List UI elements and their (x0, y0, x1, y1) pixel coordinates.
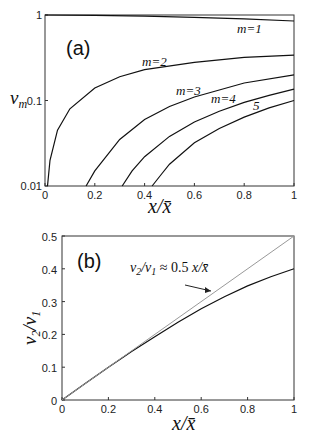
curve-m=2 (48, 55, 295, 186)
y-tick-label: 0.1 (27, 95, 42, 107)
curve-m=4 (122, 89, 294, 186)
label-m1: m=1 (237, 21, 262, 36)
x-tick-label: 0 (42, 189, 48, 201)
label-m4: m=4 (211, 91, 236, 106)
y-tick-label: 0.01 (21, 180, 42, 192)
x-tick-label: 0.2 (87, 189, 102, 201)
figure: 00.20.40.60.810.010.11 (a) vm x/x̄ m=1 m… (0, 0, 311, 447)
panel-b-label: (b) (77, 250, 101, 272)
x-tick-label: 1 (291, 189, 297, 201)
panel-b-xlabel: x/x̄ (171, 412, 195, 434)
x-tick-label: 0.4 (147, 403, 162, 415)
y-tick-label: 0.5 (42, 231, 57, 243)
x-tick-label: 0.2 (101, 403, 116, 415)
annotation-arrowhead (205, 287, 211, 293)
curve-m=5 (152, 101, 294, 187)
x-tick-label: 0.6 (194, 403, 209, 415)
panel-b-annotation: v2/v1 ≈ 0.5 x/x̄ (130, 260, 209, 277)
label-m2: m=2 (142, 54, 167, 69)
y-tick-label: 0.2 (42, 329, 57, 341)
panel-a-label: (a) (66, 37, 90, 59)
x-tick-label: 0 (59, 403, 65, 415)
y-tick-label: 0.3 (42, 297, 57, 309)
panel-a: 00.20.40.60.810.010.11 (a) vm x/x̄ m=1 m… (10, 9, 297, 217)
panel-a-ylabel: vm (10, 87, 27, 111)
y-tick-label: 0.4 (42, 264, 57, 276)
y-tick-label: 0 (51, 395, 57, 407)
label-m3: m=3 (176, 83, 201, 98)
curve-v2/v1 (62, 269, 294, 400)
x-tick-label: 0.8 (240, 403, 255, 415)
x-tick-label: 0.8 (237, 189, 252, 201)
y-tick-label: 1 (36, 9, 42, 21)
x-tick-label: 0.6 (187, 189, 202, 201)
panel-b-ylabel: v2/v1 (19, 311, 43, 345)
panel-a-xlabel: x/x̄ (147, 195, 171, 217)
label-m5: 5 (253, 98, 260, 113)
panel-b: 00.20.40.60.8100.10.20.30.40.5 (b) v2/v1… (19, 231, 297, 434)
y-tick-label: 0.1 (42, 362, 57, 374)
x-tick-label: 1 (291, 403, 297, 415)
